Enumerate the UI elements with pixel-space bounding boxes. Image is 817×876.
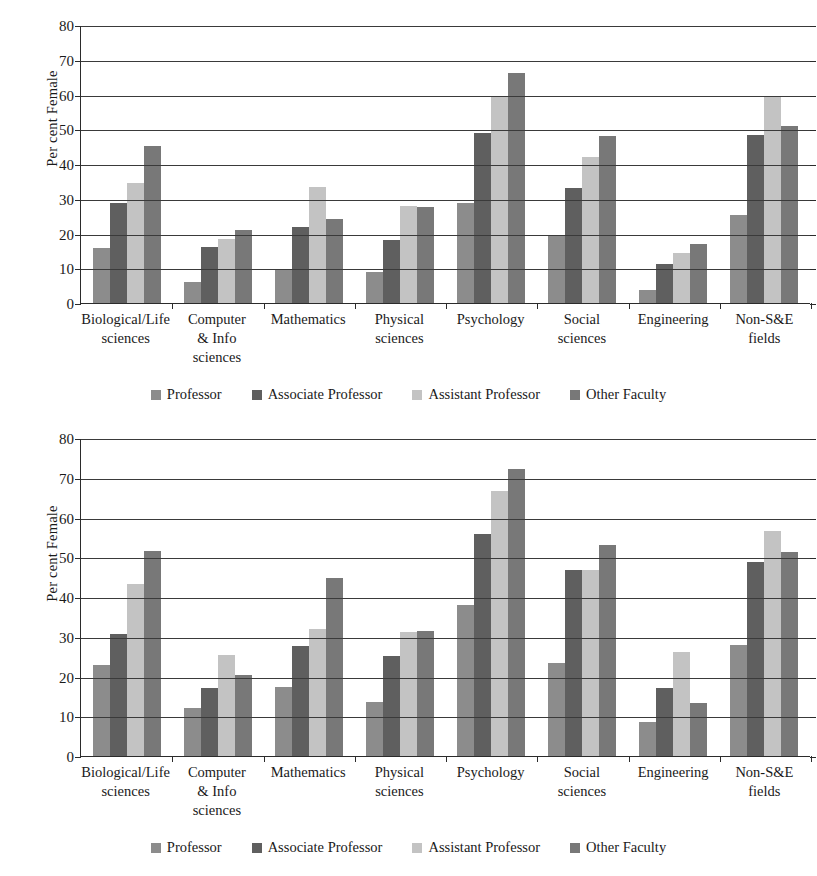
bar [781,552,798,756]
y-tick-mark-right-10 [810,269,816,270]
legend-item: Other Faculty [570,839,666,856]
x-axis-label-line: Non-S&E [720,763,809,782]
gridline-10 [81,269,810,270]
x-axis-label: Computer& Infosciences [171,310,262,367]
two-panel-bar-chart-figure: Per cent Female 80706050403020100 Biolog… [0,0,817,876]
bar [690,244,707,303]
y-axis-ticks-bottom: 80706050403020100 [36,439,74,757]
y-tick-label-50: 50 [36,551,74,566]
y-tick-label-20: 20 [36,670,74,685]
y-tick-mark-0 [75,304,81,305]
y-tick-mark-30 [75,200,81,201]
y-axis-ticks-top: 80706050403020100 [36,26,74,304]
y-tick-mark-80 [75,26,81,27]
gridline-40 [81,598,810,599]
y-tick-mark-right-70 [810,61,816,62]
x-axis-label-line: sciences [81,782,170,801]
x-axis-label-line: & Info [172,782,261,801]
y-tick-mark-right-60 [810,519,816,520]
legend-item: Professor [151,386,222,403]
y-tick-mark-right-30 [810,638,816,639]
bar [690,703,707,756]
x-axis-label: Socialsciences [536,310,627,367]
bar [582,157,599,303]
x-axis-label: Mathematics [263,763,354,820]
x-axis-label-line: sciences [81,329,170,348]
gridline-20 [81,678,810,679]
bar [201,247,218,303]
legend-swatch-icon [412,843,422,853]
x-axis-label-line: Social [537,310,626,329]
x-axis-label: Biological/Lifesciences [80,310,171,367]
y-tick-mark-40 [75,165,81,166]
y-axis-label-bottom: Per cent Female [4,545,28,562]
x-group-separator [355,303,356,309]
legend-item: Associate Professor [252,839,383,856]
y-tick-mark-0 [75,757,81,758]
x-axis-labels-bottom: Biological/LifesciencesComputer& Infosci… [80,763,810,820]
bar [292,227,309,303]
bar [400,632,417,756]
bar [144,551,161,757]
x-axis-label: Biological/Lifesciences [80,763,171,820]
legend-bottom: ProfessorAssociate ProfessorAssistant Pr… [0,839,817,856]
bar [417,631,434,756]
x-axis-label-line: sciences [355,782,444,801]
y-tick-mark-10 [75,269,81,270]
y-tick-mark-right-80 [810,26,816,27]
x-axis-label-line: Engineering [629,310,718,329]
bar [366,272,383,303]
x-axis-label: Psychology [445,763,536,820]
x-group-separator [629,756,630,762]
x-group-separator [264,303,265,309]
legend-item: Assistant Professor [412,839,540,856]
bar [747,135,764,303]
y-tick-mark-20 [75,235,81,236]
bar [599,136,616,303]
x-group-separator [537,303,538,309]
bar [730,215,747,303]
y-tick-mark-30 [75,638,81,639]
x-group-separator [446,756,447,762]
x-axis-label-line: sciences [537,329,626,348]
x-axis-label-line: & Info [172,329,261,348]
x-axis-label-line: Biological/Life [81,310,170,329]
x-axis-label-line: sciences [172,801,261,820]
y-tick-label-70: 70 [36,53,74,68]
y-tick-mark-50 [75,558,81,559]
chart-panel-bottom: Per cent Female 80706050403020100 Biolog… [0,425,817,876]
y-tick-mark-40 [75,598,81,599]
bar [218,239,235,303]
legend-item: Other Faculty [570,386,666,403]
y-tick-label-70: 70 [36,471,74,486]
chart-panel-top: Per cent Female 80706050403020100 Biolog… [0,0,817,425]
bar [673,253,690,303]
bar [184,282,201,303]
legend-top: ProfessorAssociate ProfessorAssistant Pr… [0,386,817,403]
legend-swatch-icon [252,843,262,853]
bar [474,133,491,303]
bar [326,578,343,756]
bar [383,656,400,756]
legend-label: Other Faculty [586,839,666,856]
x-group-separator [629,303,630,309]
x-axis-label: Computer& Infosciences [171,763,262,820]
y-tick-mark-50 [75,130,81,131]
legend-label: Associate Professor [268,386,383,403]
bar [218,655,235,756]
legend-swatch-icon [252,390,262,400]
bar [309,187,326,303]
gridline-30 [81,638,810,639]
x-group-separator [446,303,447,309]
gridline-70 [81,479,810,480]
bar [93,665,110,756]
y-tick-mark-60 [75,519,81,520]
y-tick-label-50: 50 [36,123,74,138]
x-axis-label-line: Computer [172,310,261,329]
gridline-10 [81,717,810,718]
bar [326,219,343,303]
bar [400,206,417,303]
legend-label: Other Faculty [586,386,666,403]
x-axis-label-line: Physical [355,310,444,329]
y-tick-mark-right-80 [810,439,816,440]
